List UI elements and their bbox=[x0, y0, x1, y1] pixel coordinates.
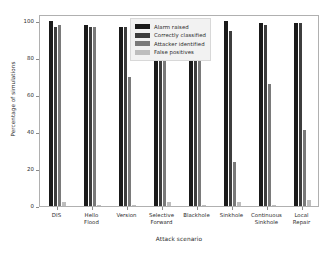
bar bbox=[128, 77, 132, 206]
x-tick: Local Repair bbox=[279, 207, 325, 226]
bar bbox=[119, 27, 123, 206]
y-axis-ticks: 020406080100 bbox=[0, 15, 39, 207]
bar bbox=[124, 27, 128, 206]
x-tick-mark bbox=[232, 207, 233, 210]
bar bbox=[154, 56, 158, 206]
bar bbox=[202, 205, 206, 206]
bar bbox=[163, 56, 167, 206]
legend-label: Correctly classified bbox=[154, 32, 206, 38]
legend-swatch bbox=[135, 33, 150, 38]
bar bbox=[159, 56, 163, 206]
bar bbox=[167, 202, 171, 206]
bar bbox=[259, 23, 263, 206]
x-tick-mark bbox=[267, 207, 268, 210]
bar bbox=[307, 200, 311, 206]
y-tick-label: 80 bbox=[27, 55, 34, 62]
legend-item: Attacker identified bbox=[135, 40, 206, 48]
x-tick-mark bbox=[127, 207, 128, 210]
bar bbox=[264, 25, 268, 206]
x-tick-label: Local Repair bbox=[279, 212, 325, 226]
bar bbox=[54, 27, 58, 206]
chart-legend: Alarm raisedCorrectly classifiedAttacker… bbox=[130, 18, 211, 61]
bar bbox=[89, 27, 93, 206]
x-tick-mark bbox=[92, 207, 93, 210]
x-tick-mark bbox=[57, 207, 58, 210]
bar bbox=[93, 27, 97, 206]
y-tick-label: 40 bbox=[27, 129, 34, 136]
legend-item: Correctly classified bbox=[135, 31, 206, 39]
legend-label: Alarm raised bbox=[154, 24, 189, 30]
bar bbox=[299, 23, 303, 206]
bar bbox=[224, 21, 228, 206]
bar bbox=[62, 202, 66, 206]
bar bbox=[58, 25, 62, 206]
legend-item: False positives bbox=[135, 48, 206, 56]
y-tick-label: 20 bbox=[27, 166, 34, 173]
bar bbox=[198, 58, 202, 206]
legend-label: Attacker identified bbox=[154, 41, 205, 47]
y-tick-label: 100 bbox=[23, 18, 34, 25]
y-tick-label: 60 bbox=[27, 92, 34, 99]
bar bbox=[233, 162, 237, 206]
legend-swatch bbox=[135, 50, 150, 55]
bar bbox=[237, 202, 241, 206]
legend-swatch bbox=[135, 24, 150, 29]
legend-swatch bbox=[135, 41, 150, 46]
bar bbox=[294, 23, 298, 206]
bar bbox=[49, 21, 53, 206]
bar bbox=[272, 205, 276, 206]
x-axis-label: Attack scenario bbox=[39, 236, 319, 242]
bar bbox=[132, 205, 136, 206]
x-tick-mark bbox=[302, 207, 303, 210]
bar bbox=[97, 205, 101, 206]
bar bbox=[194, 58, 198, 206]
legend-label: False positives bbox=[154, 49, 194, 55]
chart-figure: Percentage of simulations 020406080100 D… bbox=[0, 0, 328, 253]
bar bbox=[268, 84, 272, 206]
bar bbox=[229, 31, 233, 206]
bar bbox=[189, 56, 193, 206]
bar bbox=[84, 25, 88, 206]
x-axis-ticks: DISHello FloodVersionSelective ForwardBl… bbox=[39, 207, 319, 237]
bar bbox=[303, 130, 307, 206]
x-tick-mark bbox=[162, 207, 163, 210]
legend-item: Alarm raised bbox=[135, 23, 206, 31]
x-tick-mark bbox=[197, 207, 198, 210]
